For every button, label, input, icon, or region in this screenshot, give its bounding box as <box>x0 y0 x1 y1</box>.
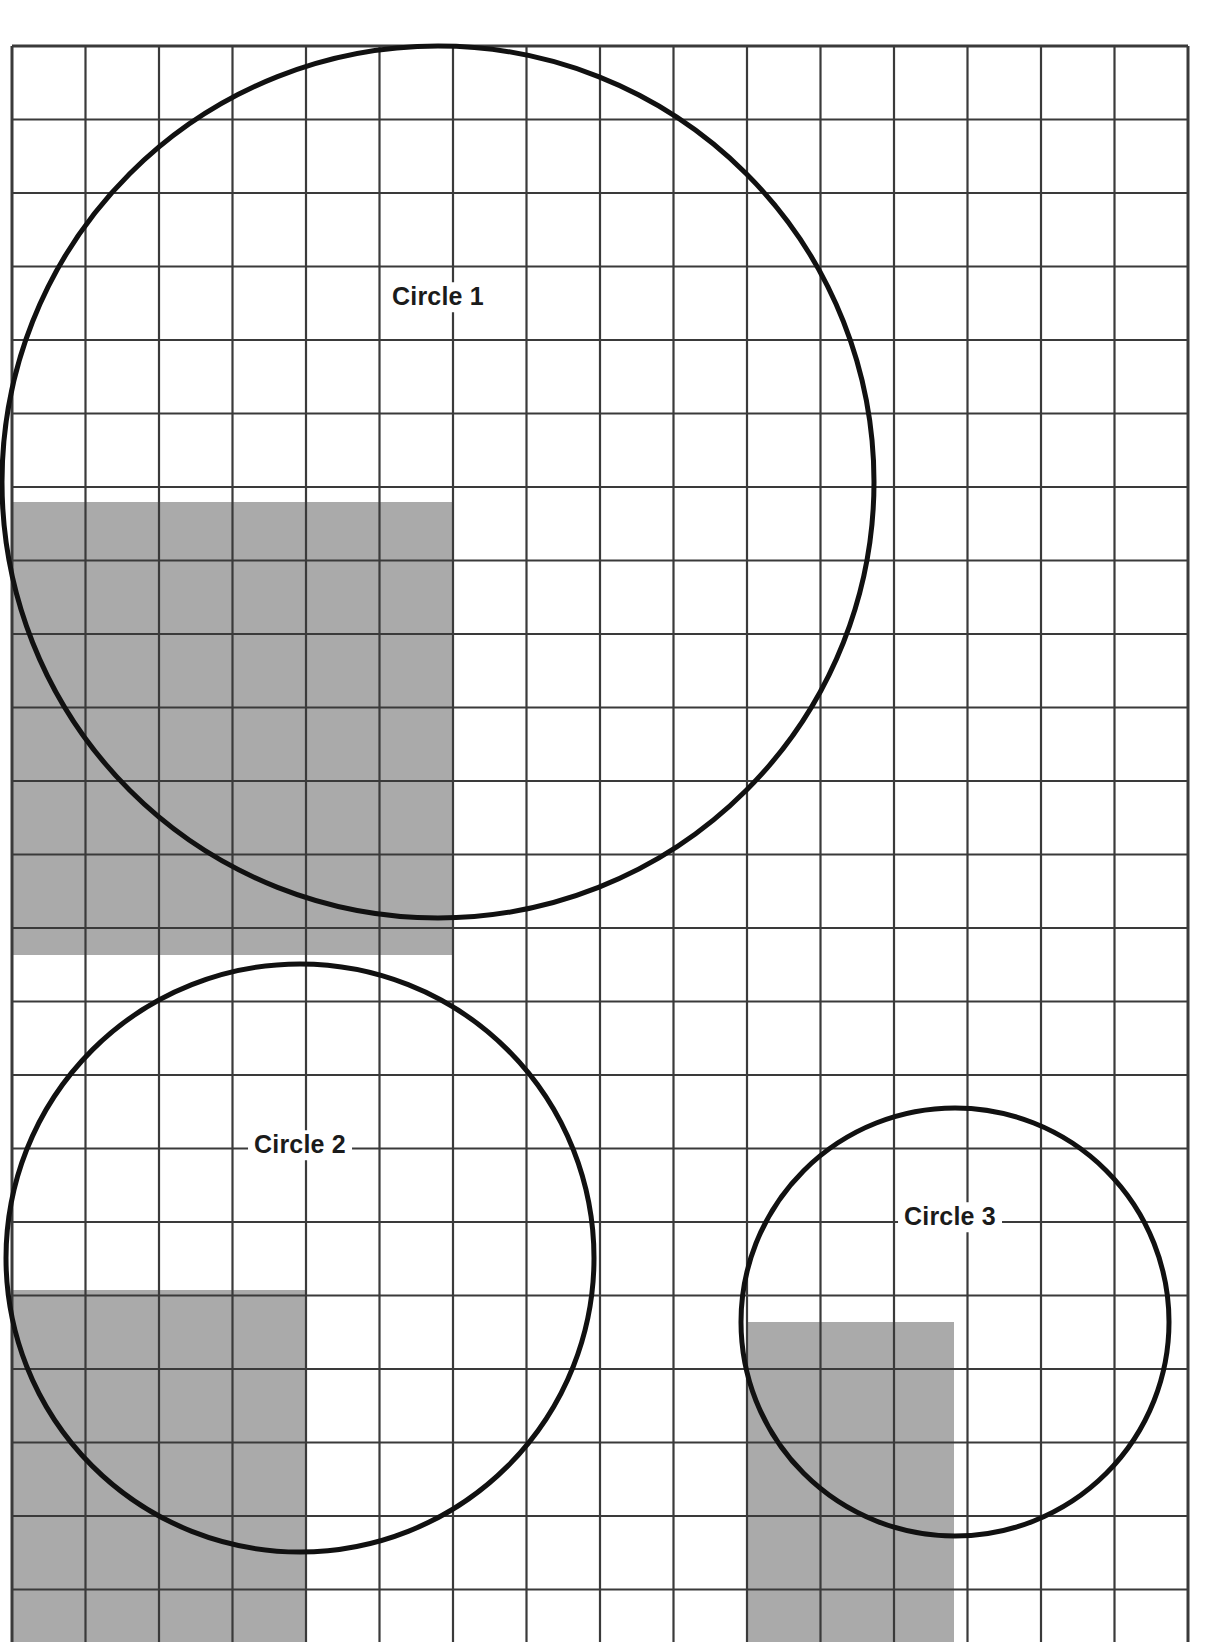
grid-and-circles-figure <box>0 0 1210 1642</box>
circle-3-label: Circle 3 <box>898 1202 1002 1232</box>
circle-2-label: Circle 2 <box>248 1130 352 1160</box>
circle-1-label: Circle 1 <box>386 282 490 312</box>
worksheet-canvas: Circle 1 Circle 2 Circle 3 <box>0 0 1210 1642</box>
shaded-regions-layer <box>12 502 954 1642</box>
